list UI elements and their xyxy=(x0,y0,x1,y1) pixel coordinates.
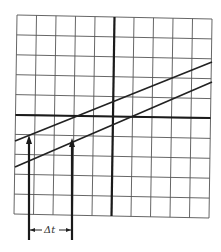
dim-arrowhead-right xyxy=(66,228,71,232)
dim-arrowhead-left xyxy=(30,228,35,232)
delta-t-label: Δt xyxy=(43,224,56,235)
oscilloscope-diagram: Δt xyxy=(0,0,221,252)
horizontal-axis xyxy=(16,115,211,118)
delta-t-dimension: Δt xyxy=(30,224,71,235)
axes xyxy=(16,17,211,216)
